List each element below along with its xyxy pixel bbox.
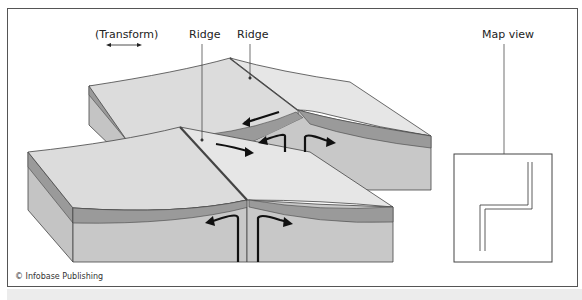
transform-label: (Transform) (95, 28, 158, 41)
block-diagram (0, 0, 582, 300)
transform-text: Transform (99, 28, 154, 41)
ridge-right-label: Ridge (237, 28, 268, 41)
double-headed-arrow-icon (106, 43, 142, 47)
credit-line: © Infobase Publishing (15, 272, 103, 281)
map-view-label: Map view (482, 28, 534, 41)
map-view-inset (454, 154, 552, 262)
ridge-left-label: Ridge (189, 28, 220, 41)
